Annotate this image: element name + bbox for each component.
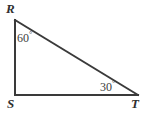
vertex-label-s: S: [7, 97, 14, 110]
geometry-figure: R S T 60° 30°: [0, 0, 147, 116]
angle-t-value: 30: [100, 80, 112, 94]
angle-r-value: 60: [17, 31, 29, 45]
edge-RT: [15, 20, 138, 95]
angle-label-t-30: 30°: [100, 80, 115, 93]
vertex-label-t: T: [131, 97, 139, 110]
degree-symbol-icon: °: [112, 79, 115, 88]
triangle-drawing: [0, 0, 147, 116]
degree-symbol-icon: °: [29, 30, 32, 39]
angle-label-r-60: 60°: [17, 31, 32, 44]
vertex-label-r: R: [6, 2, 15, 15]
